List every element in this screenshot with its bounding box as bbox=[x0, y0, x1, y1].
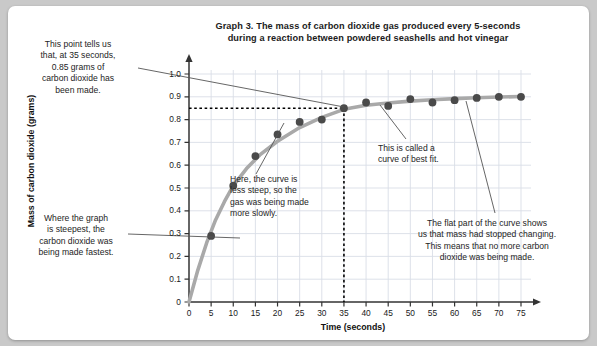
annotation-flat-part-line: The flat part of the curve shows bbox=[394, 218, 580, 229]
annotation-top-left-line: that, at 35 seconds, bbox=[14, 50, 142, 61]
annotation-middle-line: more slowly. bbox=[230, 208, 342, 219]
y-tick-label: 0.6 bbox=[149, 160, 181, 170]
y-tick-label: 0.7 bbox=[149, 137, 181, 147]
annotation-middle-line: Here, the curve is bbox=[230, 174, 342, 185]
graph-card: Graph 3. The mass of carbon dioxide gas … bbox=[8, 6, 589, 340]
y-tick-label: 0.2 bbox=[149, 251, 181, 261]
y-tick-label: 0 bbox=[149, 297, 181, 307]
annotation-flat-part-line: dioxide was being made. bbox=[394, 252, 580, 263]
annotation-top-left-line: This point tells us bbox=[14, 39, 142, 50]
annotation-best-fit-line: This is called a bbox=[378, 143, 488, 154]
annotation-middle-line: less steep, so the bbox=[230, 185, 342, 196]
y-tick-label: 0.9 bbox=[149, 91, 181, 101]
annotation-middle-line: gas was being made bbox=[230, 197, 342, 208]
annotation-top-left: This point tells usthat, at 35 seconds,0… bbox=[14, 39, 142, 96]
y-tick-label: 0.5 bbox=[149, 183, 181, 193]
annotation-bottom-left-line: Where the graph bbox=[12, 213, 140, 224]
y-tick-label: 0.3 bbox=[149, 228, 181, 238]
annotation-flat-part-line: This means that no more carbon bbox=[394, 241, 580, 252]
annotation-best-fit: This is called acurve of best fit. bbox=[378, 143, 488, 166]
y-tick-label: 0.4 bbox=[149, 205, 181, 215]
annotation-top-left-line: been made. bbox=[14, 85, 142, 96]
annotation-bottom-left-line: is steepest, the bbox=[12, 224, 140, 235]
annotation-top-left-line: 0.85 grams of bbox=[14, 62, 142, 73]
annotation-flat-part-line: us that mass had stopped changing. bbox=[394, 229, 580, 240]
annotation-top-left-line: carbon dioxide has bbox=[14, 73, 142, 84]
annotation-bottom-left-line: carbon dioxide was bbox=[12, 236, 140, 247]
y-tick-label: 1.0 bbox=[149, 69, 181, 79]
y-tick-label: 0.8 bbox=[149, 114, 181, 124]
annotation-flat-part: The flat part of the curve showsus that … bbox=[394, 218, 580, 264]
y-tick-label: 0.1 bbox=[149, 274, 181, 284]
annotation-bottom-left: Where the graphis steepest, thecarbon di… bbox=[12, 213, 140, 259]
annotation-bottom-left-line: being made fastest. bbox=[12, 247, 140, 258]
x-tick-label: 75 bbox=[507, 308, 535, 318]
annotation-middle: Here, the curve isless steep, so thegas … bbox=[230, 174, 342, 220]
x-axis-title: Time (seconds) bbox=[188, 322, 518, 332]
annotation-best-fit-line: curve of best fit. bbox=[378, 154, 488, 165]
